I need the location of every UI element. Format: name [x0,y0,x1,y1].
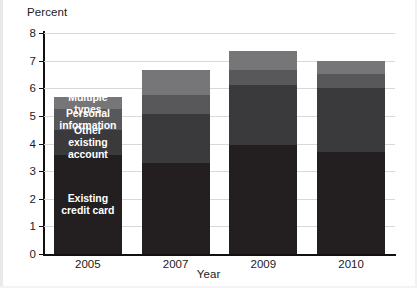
bar-segment-2007-multiple-types[interactable] [142,70,210,95]
y-tick-label-6: 6 [6,82,36,94]
y-tick-mark-0 [39,254,44,255]
y-tick-label-7: 7 [6,55,36,67]
y-axis-title: Percent [27,6,67,18]
series-label-existing_credit: Existingcredit card [54,192,122,216]
y-tick-label-4: 4 [6,138,36,150]
y-tick-label-3: 3 [6,165,36,177]
bar-segment-2009-personal-information[interactable] [229,70,297,85]
y-tick-label-2: 2 [6,193,36,205]
bar-group-2010[interactable] [317,33,385,254]
bar-segment-2009-existing-credit-card[interactable] [229,145,297,254]
bar-segment-2010-other-existing-account[interactable] [317,88,385,152]
bar-group-2009[interactable] [229,33,297,254]
bar-segment-2010-existing-credit-card[interactable] [317,152,385,254]
series-label-line: account [55,148,121,160]
chart-figure: Percent 012345678 Existingcredit cardOth… [0,0,417,288]
x-axis-line [43,254,396,256]
page-edge-left [0,0,3,288]
bar-segment-2007-personal-information[interactable] [142,95,210,114]
series-label-line: credit card [55,204,121,216]
series-label-line: Existing [55,192,121,204]
y-tick-label-0: 0 [6,248,36,260]
series-label-line: Multiple types [55,91,121,115]
bar-group-2007[interactable] [142,33,210,254]
bar-segment-2007-other-existing-account[interactable] [142,114,210,162]
x-axis-title: Year [0,268,417,280]
bar-segment-2010-multiple-types[interactable] [317,61,385,75]
series-label-multiple_types: Multiple types [54,91,122,115]
bar-segment-2007-existing-credit-card[interactable] [142,163,210,254]
plot-area: Existingcredit cardOther existingaccount… [44,33,395,254]
y-tick-label-1: 1 [6,220,36,232]
series-label-line: information [55,119,121,131]
bar-segment-2010-personal-information[interactable] [317,74,385,88]
bar-segment-2009-multiple-types[interactable] [229,51,297,70]
bar-group-2005[interactable]: Existingcredit cardOther existingaccount… [54,33,122,254]
y-tick-label-8: 8 [6,27,36,39]
bar-segment-2009-other-existing-account[interactable] [229,85,297,144]
y-tick-label-5: 5 [6,110,36,122]
